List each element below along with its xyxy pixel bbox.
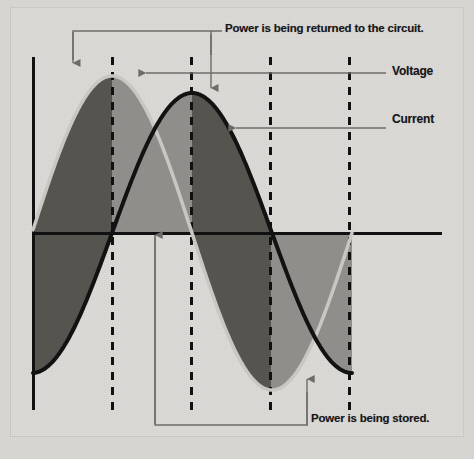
region-power-returned [192, 233, 271, 390]
figure-canvas: Power is being returned to the circuit. … [0, 0, 474, 459]
legend-label-current: Current [392, 112, 434, 126]
annotation-power-stored: Power is being stored. [311, 412, 429, 424]
legend-label-voltage: Voltage [392, 64, 433, 78]
region-power-returned [192, 93, 271, 233]
region-power-returned [33, 233, 112, 373]
annotation-power-returned: Power is being returned to the circuit. [225, 22, 424, 34]
region-power-returned [33, 76, 112, 233]
leader-returned-bracket [73, 31, 222, 60]
